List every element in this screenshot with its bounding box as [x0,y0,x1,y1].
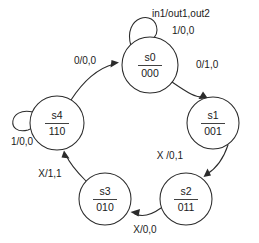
state-node-s1[interactable]: s1 001 [187,97,239,149]
state-node-s1-code: 001 [204,125,222,137]
transition-s3-to-s4 [62,151,87,182]
state-node-s1-circle [187,97,239,149]
state-node-s1-name: s1 [207,109,218,121]
legend-format-label: in1/out1,out2 [152,8,210,19]
state-node-s0-circle [122,37,178,93]
state-node-s4-circle [30,96,84,150]
transition-s0-to-s1 [172,82,208,99]
transition-s4-to-s0-path [71,64,114,100]
transition-s0-to-s1-path [172,82,204,97]
transition-label-s3-to-s4: X/1,1 [38,168,62,179]
transition-s3-to-s4-arrowhead [62,151,70,159]
state-node-s2-circle [160,173,212,225]
state-node-s4-code: 110 [49,125,66,137]
state-machine-diagram: s0 000 s1 001 s2 011 s3 010 s4 [0,0,259,243]
state-node-s2-code: 011 [178,201,195,213]
transition-label-s4-to-s0: 0/0,0 [74,55,97,66]
transition-s1-to-s2-arrowhead [204,169,212,178]
transition-s2-to-s3-arrowhead [131,209,141,217]
transition-s2-to-s3 [131,208,162,217]
state-node-s3-circle [79,173,131,225]
state-node-s3[interactable]: s3 010 [79,173,131,225]
state-node-s2-name: s2 [180,185,191,197]
state-node-s0-code: 000 [141,67,159,79]
state-node-s2[interactable]: s2 011 [160,173,212,225]
state-node-s3-code: 010 [96,201,114,213]
state-node-s4[interactable]: s4 110 [30,96,84,150]
transition-label-s0-to-s1: 0/1,0 [196,59,219,70]
state-node-s3-name: s3 [99,185,110,197]
state-node-s0[interactable]: s0 000 [122,37,178,93]
transition-s4-to-s0 [71,60,119,100]
state-node-s0-name: s0 [144,51,155,63]
state-node-s4-name: s4 [51,109,62,121]
transition-label-s4-to-s4: 1/0,0 [11,136,34,147]
fsm-canvas: s0 000 s1 001 s2 011 s3 010 s4 [0,0,259,243]
transition-s1-to-s2 [204,145,229,177]
transition-label-s2-to-s3: X/0,0 [133,224,157,235]
transition-s4-to-s0-arrowhead [111,60,120,68]
transition-s3-to-s4-path [66,155,86,181]
transition-label-s0-to-s0: 1/0,0 [172,25,195,36]
transition-label-s1-to-s2: X /0,1 [157,150,184,161]
